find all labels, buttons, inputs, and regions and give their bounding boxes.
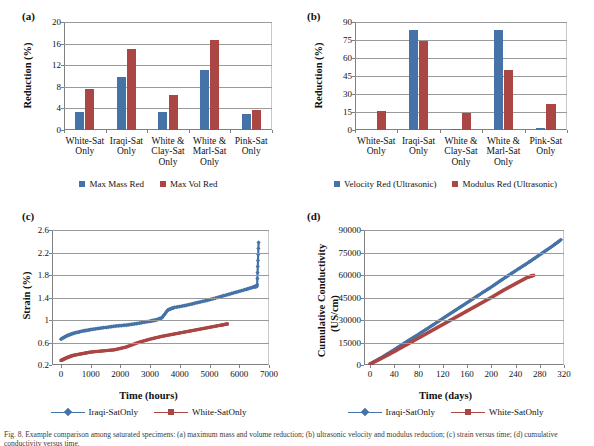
x-tick-label: 40 xyxy=(390,369,399,379)
y-tick-label: 1.4 xyxy=(38,293,49,303)
gridline xyxy=(52,275,269,276)
x-tick-mark xyxy=(269,365,270,368)
y-tick-mark xyxy=(49,365,52,366)
series-Iraqi-SatOnly xyxy=(368,238,563,365)
bar xyxy=(117,77,126,130)
y-tick-label: 2.6 xyxy=(38,225,49,235)
gridline xyxy=(364,320,564,321)
legend-item: White-SatOnly xyxy=(451,407,544,417)
data-marker xyxy=(256,258,260,262)
bar xyxy=(75,112,84,130)
bar xyxy=(451,129,460,130)
x-category-label: Pink-SatOnly xyxy=(520,136,573,157)
series-line xyxy=(61,242,259,339)
legend-label: Max Mass Red xyxy=(89,179,144,189)
gridline xyxy=(52,230,269,231)
y-tick-label: 90000 xyxy=(339,225,362,235)
y-tick-mark xyxy=(49,298,52,299)
data-marker xyxy=(226,322,229,325)
x-tick-mark xyxy=(120,365,121,368)
y-tick-mark xyxy=(352,94,355,95)
x-tick-mark xyxy=(370,365,371,368)
y-tick-label: 4 xyxy=(57,103,62,113)
x-tick-mark xyxy=(106,130,107,133)
gridline xyxy=(364,298,564,299)
x-tick-mark xyxy=(189,130,190,133)
legend-item: Max Mass Red xyxy=(79,179,144,189)
x-tick-mark xyxy=(210,365,211,368)
y-tick-mark xyxy=(49,275,52,276)
y-tick-mark xyxy=(352,112,355,113)
gridline xyxy=(364,275,564,276)
x-tick-mark xyxy=(272,130,273,133)
legend-marker-icon xyxy=(168,409,174,415)
y-tick-label: 1.8 xyxy=(38,270,49,280)
bar xyxy=(169,95,178,130)
y-tick-mark xyxy=(49,253,52,254)
gridline xyxy=(355,22,567,23)
panel-a-legend: Max Mass RedMax Vol Red xyxy=(0,179,297,189)
y-tick-label: 60 xyxy=(343,53,352,63)
gridline xyxy=(52,298,269,299)
y-tick-label: 2.2 xyxy=(38,248,49,258)
bar xyxy=(494,30,503,130)
x-tick-mark xyxy=(180,365,181,368)
gridline xyxy=(364,230,564,231)
legend-item: Iraqi-SatOnly xyxy=(348,407,436,417)
category-label-line: Only xyxy=(477,157,530,167)
y-tick-label: 0 xyxy=(348,125,353,135)
legend-label: Iraqi-SatOnly xyxy=(386,407,436,417)
legend-symbol xyxy=(348,409,382,416)
gridline xyxy=(355,40,567,41)
data-marker xyxy=(256,240,260,244)
y-tick-label: 60000 xyxy=(339,270,362,280)
legend-label: Max Vol Red xyxy=(170,179,218,189)
gridline xyxy=(52,320,269,321)
panel-a-plot-area: 048121620White-SatOnlyIraqi-SatOnlyWhite… xyxy=(64,22,272,130)
bar xyxy=(377,111,386,130)
gridline xyxy=(355,76,567,77)
y-tick-label: 30 xyxy=(343,89,352,99)
gridline xyxy=(364,343,564,344)
gridline xyxy=(64,22,272,23)
x-tick-mark xyxy=(567,130,568,133)
x-tick-label: 160 xyxy=(460,369,474,379)
legend-marker-icon xyxy=(360,408,368,416)
x-tick-mark xyxy=(64,130,65,133)
x-tick-label: 80 xyxy=(414,369,423,379)
y-tick-label: 30000 xyxy=(339,315,362,325)
legend-item: Velocity Red (Ultrasonic) xyxy=(334,179,436,189)
y-tick-label: 45000 xyxy=(339,293,362,303)
y-tick-mark xyxy=(61,44,64,45)
gridline xyxy=(52,253,269,254)
legend-symbol xyxy=(51,409,85,416)
x-tick-mark xyxy=(525,130,526,133)
bar xyxy=(242,114,251,130)
y-tick-label: 90 xyxy=(343,17,352,27)
gridline xyxy=(355,94,567,95)
bar xyxy=(252,110,261,130)
panel-a-y-axis-label: Reduction (%) xyxy=(22,31,33,121)
x-tick-label: 2000 xyxy=(111,369,129,379)
x-tick-mark xyxy=(482,130,483,133)
bar xyxy=(210,40,219,130)
x-tick-mark xyxy=(467,365,468,368)
panel-c-tag: (c) xyxy=(22,210,34,222)
legend-label: White-SatOnly xyxy=(489,407,544,417)
panel-b-tag: (b) xyxy=(307,10,320,22)
bar xyxy=(200,70,209,130)
x-tick-label: 6000 xyxy=(230,369,248,379)
data-marker xyxy=(256,246,260,250)
y-tick-label: 15000 xyxy=(339,338,362,348)
legend-swatch-icon xyxy=(334,181,340,187)
y-tick-mark xyxy=(352,40,355,41)
y-tick-mark xyxy=(49,230,52,231)
x-tick-label: 240 xyxy=(509,369,523,379)
legend-label: Modulus Red (Ultrasonic) xyxy=(462,179,557,189)
y-tick-mark xyxy=(61,22,64,23)
bar xyxy=(504,70,513,130)
y-tick-label: 45 xyxy=(343,71,352,81)
category-label-line: Only xyxy=(184,157,236,167)
category-label-line: Only xyxy=(520,146,573,156)
x-tick-label: 0 xyxy=(368,369,373,379)
